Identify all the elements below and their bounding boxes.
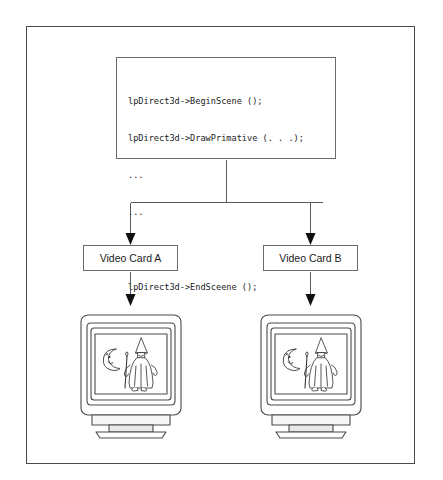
monitor-a: [72, 308, 190, 440]
code-line: lpDirect3d->EndSceene ();: [128, 281, 304, 293]
monitor-b: [252, 308, 370, 440]
code-line: lpDirect3d->DrawPrimative (. . .);: [128, 132, 304, 144]
video-card-a-box: Video Card A: [83, 245, 178, 271]
code-line: ...: [128, 206, 304, 218]
video-card-b-label: Video Card B: [279, 252, 341, 264]
code-line-list: lpDirect3d->BeginScene (); lpDirect3d->D…: [128, 70, 304, 318]
video-card-a-label: Video Card A: [100, 252, 162, 264]
direct3d-code-block: lpDirect3d->BeginScene (); lpDirect3d->D…: [116, 57, 336, 159]
video-card-b-box: Video Card B: [263, 245, 358, 271]
figure-root: lpDirect3d->BeginScene (); lpDirect3d->D…: [0, 0, 443, 480]
code-line: ...: [128, 169, 304, 181]
code-line: lpDirect3d->BeginScene ();: [128, 95, 304, 107]
